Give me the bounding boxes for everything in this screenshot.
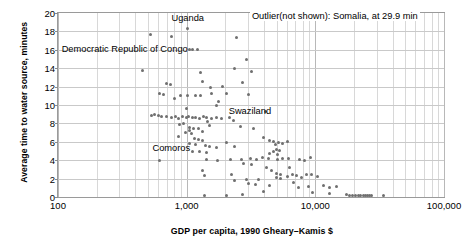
data-point — [158, 159, 161, 162]
data-point — [215, 116, 218, 119]
y-tick-label: 10 — [15, 100, 55, 111]
data-point — [205, 151, 208, 154]
data-point — [199, 71, 202, 74]
plot-area: 024681012141618201001,00010,000100,000Ou… — [57, 12, 445, 198]
y-gridline — [58, 87, 444, 88]
y-gridline — [58, 123, 444, 124]
data-point — [215, 146, 218, 149]
data-point — [257, 178, 260, 181]
y-tick-mark — [55, 68, 58, 69]
y-tick-label: 4 — [15, 155, 55, 166]
data-point — [182, 122, 185, 125]
data-point — [287, 157, 290, 160]
data-point — [209, 86, 212, 89]
data-point — [194, 143, 197, 146]
data-point — [241, 193, 244, 196]
y-tick-label: 2 — [15, 173, 55, 184]
data-point — [335, 185, 338, 188]
x-tick-label: 100,000 — [427, 200, 461, 211]
data-point — [286, 140, 289, 143]
data-point — [165, 82, 168, 85]
data-point — [240, 158, 243, 161]
y-tick-mark — [55, 123, 58, 124]
data-point — [220, 117, 223, 120]
data-point — [165, 115, 168, 118]
y-tick-mark — [55, 105, 58, 106]
data-point — [268, 184, 271, 187]
data-point — [270, 169, 273, 172]
data-point — [225, 92, 228, 95]
y-tick-label: 14 — [15, 63, 55, 74]
data-point — [232, 119, 235, 122]
data-point — [203, 174, 206, 177]
data-point — [279, 173, 282, 176]
x-tick-label: 1,000 — [175, 200, 199, 211]
data-point — [262, 136, 265, 139]
data-point — [279, 177, 282, 180]
y-tick-mark — [55, 87, 58, 88]
data-point — [198, 150, 201, 153]
y-gridline — [58, 68, 444, 69]
data-point — [311, 191, 314, 194]
data-point — [245, 178, 248, 181]
y-tick-mark — [55, 179, 58, 180]
outlier-note: Outlier(not shown): Somalia, at 29.9 min — [250, 11, 420, 21]
data-point — [295, 174, 298, 177]
data-point — [254, 183, 257, 186]
data-point — [201, 169, 204, 172]
data-point — [206, 120, 209, 123]
data-point — [297, 186, 300, 189]
swaziland-label: Swaziland — [229, 106, 271, 117]
data-point — [191, 150, 194, 153]
data-point — [221, 85, 224, 88]
data-point — [141, 69, 144, 72]
data-point — [225, 194, 228, 197]
data-point — [252, 127, 255, 130]
data-point — [247, 182, 250, 185]
data-point — [272, 150, 275, 153]
data-point — [192, 127, 195, 130]
data-point — [250, 163, 253, 166]
data-point — [276, 153, 279, 156]
data-point — [162, 93, 165, 96]
data-point — [205, 116, 208, 119]
data-point — [322, 184, 325, 187]
data-point — [278, 149, 281, 152]
data-point — [186, 94, 189, 97]
data-point — [205, 158, 208, 161]
data-point — [216, 159, 219, 162]
uganda-label: Uganda — [171, 13, 204, 24]
data-point — [370, 194, 373, 197]
data-point — [281, 142, 284, 145]
x-axis-title: GDP per capita, 1990 Gheary–Kamis $ — [57, 226, 447, 236]
y-tick-mark — [55, 197, 58, 198]
data-point — [233, 67, 236, 70]
data-point — [198, 117, 201, 120]
data-point — [265, 166, 268, 169]
data-point — [230, 173, 233, 176]
data-point — [194, 94, 197, 97]
x-gridline — [444, 13, 445, 197]
scatter-chart: Average time to water source, minutes 02… — [0, 0, 470, 244]
data-point — [235, 36, 238, 39]
data-point — [160, 115, 163, 118]
data-point — [309, 156, 312, 159]
comoros-label: Comoros — [152, 143, 190, 154]
data-point — [305, 173, 308, 176]
data-point — [173, 97, 176, 100]
data-point — [210, 117, 213, 120]
data-point — [208, 124, 211, 127]
data-point — [149, 33, 152, 36]
data-point — [201, 130, 204, 133]
data-point — [303, 159, 306, 162]
y-tick-label: 8 — [15, 118, 55, 129]
data-point — [276, 158, 279, 161]
data-point — [291, 173, 294, 176]
data-point — [188, 126, 191, 129]
data-point — [193, 137, 196, 140]
data-point — [170, 116, 173, 119]
y-tick-mark — [55, 13, 58, 14]
data-point — [217, 100, 220, 103]
y-tick-mark — [55, 31, 58, 32]
y-tick-label: 12 — [15, 81, 55, 92]
